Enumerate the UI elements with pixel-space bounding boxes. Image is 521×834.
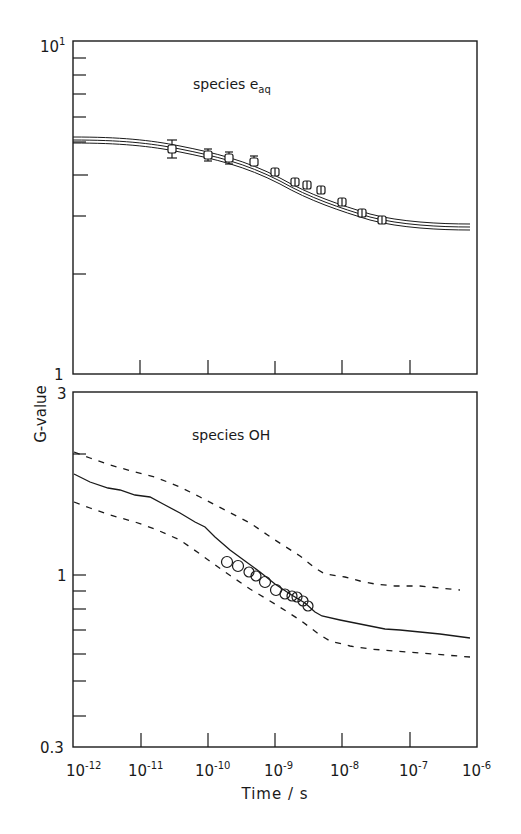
bottom-ytick-0.3: 0.3 [40,739,64,757]
top-y-ticks [73,58,88,274]
x-axis-label: Time / s [240,785,308,803]
eaq-point [317,186,325,194]
bottom-panel: 3 1 0.3 species OH [40,385,477,757]
xtick-label: 10-6 [462,760,491,780]
top-ytick-1: 1 [54,366,64,384]
bottom-ytick-1: 1 [57,567,67,585]
xtick-label: 10-10 [195,760,230,780]
eaq-point [291,178,299,186]
oh-upper-bound-line [74,452,460,590]
y-axis-label: G-value [32,385,50,443]
oh-point [233,561,244,572]
eaq-point [250,156,258,166]
top-panel: 101 1 species eaq [40,36,477,384]
eaq-point [338,198,346,206]
eaq-point [303,181,311,189]
bottom-y-ticks [73,454,86,716]
eaq-point [271,168,279,176]
eaq-simulation-band [73,137,470,230]
eaq-point [167,140,177,158]
xtick-label: 10-7 [399,760,428,780]
oh-lower-bound-line [74,502,470,657]
xtick-label: 10-8 [330,760,359,780]
oh-point [222,557,233,568]
oh-mean-line [74,474,470,638]
figure: 101 1 species eaq G-value [0,0,521,834]
eaq-point [378,216,386,224]
eaq-point [225,152,233,164]
top-x-ticks [140,360,410,374]
bottom-x-ticks [141,732,410,747]
x-tick-labels: 10-12 10-11 10-10 10-9 10-8 10-7 10-6 [66,760,491,780]
bottom-ytick-3: 3 [57,385,67,403]
oh-point [260,577,271,588]
eaq-point [204,149,212,161]
xtick-label: 10-9 [264,760,293,780]
oh-data-points [222,557,314,612]
top-species-annotation: species eaq [193,76,271,95]
xtick-label: 10-12 [66,760,101,780]
top-ytick-10: 101 [40,36,65,56]
bottom-species-annotation: species OH [192,427,270,443]
bottom-plot-frame [73,392,477,747]
eaq-point [358,209,366,217]
top-plot-frame [73,41,477,374]
xtick-label: 10-11 [128,760,163,780]
